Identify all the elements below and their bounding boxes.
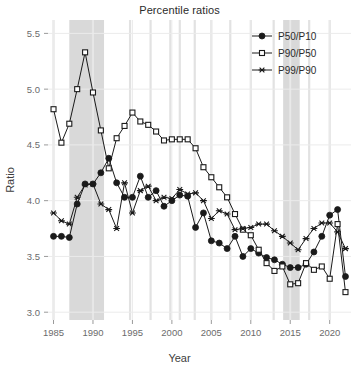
legend-label: P50/P10: [278, 31, 317, 42]
marker-open-square: [217, 185, 222, 190]
x-tick-label: 1995: [122, 327, 143, 338]
marker-open-square: [193, 146, 198, 151]
marker-open-square: [327, 276, 332, 281]
legend-label: P90/P50: [278, 48, 317, 59]
marker-asterisk: [255, 222, 262, 227]
marker-open-square: [304, 261, 309, 266]
marker-open-square: [59, 140, 64, 145]
marker-asterisk: [318, 221, 325, 226]
marker-open-square: [114, 136, 119, 141]
x-tick-label: 1990: [82, 327, 103, 338]
marker-open-square: [106, 166, 111, 171]
legend-item-p90-p50[interactable]: P90/P50: [252, 48, 317, 59]
marker-filled-circle: [66, 234, 72, 240]
marker-filled-circle: [208, 238, 214, 244]
y-tick-label: 5.5: [27, 28, 40, 39]
marker-asterisk: [311, 226, 318, 231]
marker-filled-circle: [153, 188, 159, 194]
plot-area: 3.03.54.04.55.05.5 198519901995200020052…: [0, 0, 359, 380]
x-axis-ticks: 19851990199520002005201020152020: [43, 320, 340, 338]
marker-open-square: [169, 137, 174, 142]
marker-asterisk: [224, 212, 231, 217]
y-axis-ticks: 3.03.54.04.55.05.5: [27, 28, 48, 318]
y-tick-label: 4.5: [27, 139, 40, 150]
marker-filled-circle: [137, 173, 143, 179]
marker-open-square: [122, 123, 127, 128]
marker-filled-circle: [232, 233, 238, 239]
marker-open-square: [75, 87, 80, 92]
marker-open-square: [288, 282, 293, 287]
x-tick-label: 2015: [280, 327, 301, 338]
y-tick-label: 3.0: [27, 307, 40, 318]
marker-asterisk: [200, 198, 207, 203]
y-tick-label: 5.0: [27, 84, 40, 95]
marker-filled-circle: [58, 233, 64, 239]
marker-filled-circle: [311, 249, 317, 255]
marker-filled-circle: [240, 253, 246, 259]
marker-open-square: [280, 264, 285, 269]
percentile-ratios-chart: Percentile ratios Ratio Year 3.03.54.04.…: [0, 0, 359, 380]
marker-asterisk: [153, 198, 160, 203]
marker-open-square: [51, 107, 56, 112]
marker-filled-circle: [271, 257, 277, 263]
marker-filled-circle: [161, 203, 167, 209]
x-tick-label: 2000: [161, 327, 182, 338]
marker-open-square: [161, 138, 166, 143]
marker-filled-circle: [335, 207, 341, 213]
marker-open-square: [67, 121, 72, 126]
marker-filled-circle: [259, 33, 265, 39]
marker-open-square: [256, 247, 261, 252]
marker-open-square: [98, 128, 103, 133]
marker-open-square: [343, 290, 348, 295]
marker-filled-circle: [319, 233, 325, 239]
marker-filled-circle: [224, 246, 230, 252]
marker-filled-circle: [51, 233, 57, 239]
marker-asterisk: [145, 184, 152, 189]
marker-filled-circle: [114, 180, 120, 186]
marker-filled-circle: [129, 194, 135, 200]
marker-asterisk: [232, 227, 239, 232]
marker-asterisk: [263, 222, 270, 227]
marker-filled-circle: [216, 240, 222, 246]
marker-open-square: [233, 212, 238, 217]
marker-open-square: [130, 110, 135, 115]
marker-asterisk: [342, 246, 349, 251]
marker-asterisk: [137, 188, 144, 193]
marker-open-square: [146, 122, 151, 127]
marker-open-square: [185, 137, 190, 142]
y-tick-label: 3.5: [27, 251, 40, 262]
marker-open-square: [264, 261, 269, 266]
marker-open-square: [83, 50, 88, 55]
marker-open-square: [177, 137, 182, 142]
marker-open-square: [335, 222, 340, 227]
chart-legend[interactable]: P50/P10P90/P50P99/P90: [252, 31, 317, 76]
x-tick-label: 1985: [43, 327, 64, 338]
marker-filled-circle: [287, 265, 293, 271]
marker-open-square: [90, 90, 95, 95]
marker-asterisk: [259, 68, 266, 73]
marker-asterisk: [216, 208, 223, 213]
x-tick-label: 2020: [319, 327, 340, 338]
marker-filled-circle: [327, 212, 333, 218]
marker-asterisk: [334, 230, 341, 235]
marker-open-square: [154, 129, 159, 134]
marker-open-square: [201, 165, 206, 170]
marker-filled-circle: [98, 170, 104, 176]
marker-asterisk: [303, 236, 310, 241]
marker-open-square: [319, 264, 324, 269]
legend-label: P99/P90: [278, 65, 317, 76]
marker-open-square: [209, 175, 214, 180]
marker-open-square: [311, 267, 316, 272]
legend-item-p50-p10[interactable]: P50/P10: [252, 31, 317, 42]
marker-asterisk: [161, 195, 168, 200]
marker-filled-circle: [200, 210, 206, 216]
shaded-band: [69, 20, 104, 320]
marker-filled-circle: [248, 246, 254, 252]
marker-filled-circle: [295, 265, 301, 271]
marker-asterisk: [279, 234, 286, 239]
x-tick-label: 2010: [240, 327, 261, 338]
legend-item-p99-p90[interactable]: P99/P90: [252, 65, 317, 76]
marker-open-square: [138, 119, 143, 124]
marker-filled-circle: [177, 192, 183, 198]
marker-filled-circle: [82, 181, 88, 187]
